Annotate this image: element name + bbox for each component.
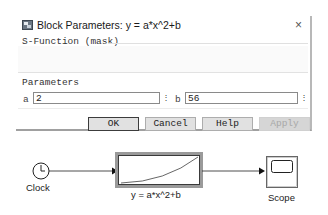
sfunction-block-icon[interactable] — [117, 154, 202, 187]
arrow-icon — [259, 168, 265, 175]
scope-icon[interactable] — [267, 157, 298, 188]
param-a-spinner-icon[interactable]: ⋮ — [162, 92, 168, 104]
block-parameters-dialog: Block Parameters: y = a*x^2+b × S-Functi… — [16, 16, 312, 131]
param-b-input[interactable] — [185, 92, 298, 104]
dialog-title: Block Parameters: y = a*x^2+b — [37, 19, 181, 31]
block-parameters-icon — [22, 20, 33, 30]
clock-icon[interactable] — [33, 163, 49, 179]
diagram-canvas — [0, 140, 328, 215]
apply-button[interactable]: Apply — [259, 117, 310, 131]
clock-label: Clock — [26, 182, 50, 193]
help-button[interactable]: Help — [202, 117, 253, 131]
cancel-button[interactable]: Cancel — [145, 117, 196, 131]
dialog-titlebar[interactable]: Block Parameters: y = a*x^2+b × — [16, 16, 310, 34]
description-area — [18, 46, 308, 73]
parameters-divider — [18, 108, 308, 109]
param-b-spinner-icon[interactable]: ⋮ — [300, 92, 306, 104]
param-a-label: a — [23, 94, 29, 105]
param-a-input[interactable] — [33, 92, 160, 104]
close-icon[interactable]: × — [295, 18, 302, 32]
simulink-diagram: Clock y = a*x^2+b Scope — [0, 140, 328, 215]
parameters-title: Parameters — [22, 77, 79, 88]
ok-button[interactable]: OK — [88, 117, 139, 131]
scope-label: Scope — [268, 192, 295, 203]
section-divider — [108, 43, 308, 44]
param-b-label: b — [175, 94, 181, 105]
sfunction-label: y = a*x^2+b — [131, 189, 181, 200]
